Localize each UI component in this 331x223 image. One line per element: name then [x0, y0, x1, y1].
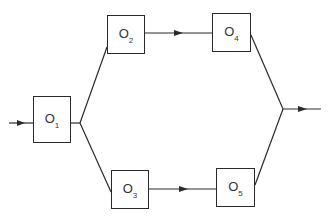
- o3-to-o5-arrowhead-icon: [179, 186, 188, 192]
- node-o1: O1: [33, 96, 71, 143]
- node-o2: O2: [107, 15, 145, 54]
- node-o1-label: O1: [45, 111, 60, 129]
- split-to-o2-line: [80, 47, 107, 123]
- input-arrowhead-icon: [17, 120, 25, 126]
- o5-to-merge-line: [255, 109, 283, 185]
- node-o4-label: O4: [224, 24, 239, 42]
- output-arrowhead-icon: [298, 106, 307, 112]
- node-o3: O3: [111, 170, 149, 209]
- o2-to-o4-arrowhead-icon: [174, 30, 183, 36]
- node-o5-label: O5: [228, 179, 243, 197]
- o4-to-merge-line: [251, 35, 283, 109]
- node-o3-label: O3: [123, 181, 138, 199]
- node-o5: O5: [216, 168, 255, 207]
- node-o2-label: O2: [119, 26, 134, 44]
- node-o4: O4: [212, 13, 251, 52]
- split-to-o3-line: [80, 123, 111, 192]
- flow-diagram: O1 O2 O3 O4 O5: [0, 0, 331, 223]
